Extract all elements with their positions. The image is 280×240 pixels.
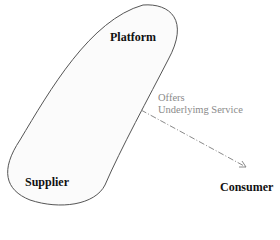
consumer-label: Consumer <box>220 180 273 195</box>
platform-label: Platform <box>110 30 156 45</box>
offers-service-edge <box>141 110 246 167</box>
supplier-label: Supplier <box>25 175 69 190</box>
edge-label: Offers Underlyimg Service <box>158 92 243 116</box>
edge-label-line1: Offers <box>158 92 243 104</box>
edge-label-line2: Underlyimg Service <box>158 104 243 116</box>
